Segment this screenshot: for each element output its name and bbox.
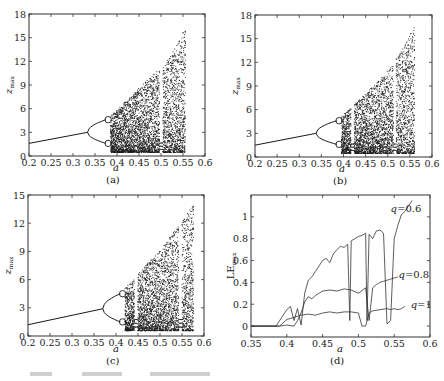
x-tick-label: 0.5 (351, 338, 366, 349)
y-tick-label: 6 (19, 274, 25, 285)
x-tick-label: 0.3 (65, 157, 80, 168)
y-tick-label: 9 (20, 80, 26, 91)
y-tick-label: 12 (240, 57, 252, 68)
panel-b-bifurcation: 0.20.250.30.350.40.450.50.550.6036912151… (229, 10, 440, 170)
y-tick-label: 18 (240, 10, 252, 21)
caption-fragment (82, 372, 122, 376)
x-tick-label: 0.6 (424, 158, 439, 169)
x-tick-label: 0.45 (127, 337, 148, 348)
x-tick-label: 0.5 (153, 157, 168, 168)
y-tick-label: 0.8 (233, 233, 248, 244)
panel-b-xlabel: a (339, 163, 345, 174)
panel-d-lyapunov: 0.350.40.450.50.550.600.20.40.60.81LEmax… (225, 195, 438, 349)
y-tick-label: 0 (19, 331, 25, 342)
series-label-q08: q=0.8 (398, 269, 429, 280)
panel-d-xlabel: a (337, 343, 343, 354)
x-tick-label: 0.4 (279, 338, 294, 349)
y-axis-label: zmax (3, 75, 15, 95)
panel-c-bifurcation: 0.20.250.30.350.40.450.50.550.603691215z… (2, 190, 212, 349)
y-tick-label: 12 (13, 218, 25, 229)
y-tick-label: 15 (14, 32, 26, 43)
plot-frame (255, 15, 432, 157)
chaotic-attractor-points (125, 206, 194, 331)
x-tick-label: 0.45 (128, 157, 149, 168)
x-tick-label: 0.25 (40, 157, 61, 168)
x-tick-label: 0.25 (39, 337, 60, 348)
x-tick-label: 0.5 (152, 337, 167, 348)
period-2-lower-branch (88, 132, 106, 143)
y-tick-label: 6 (246, 104, 252, 115)
chaotic-attractor-points (341, 27, 415, 154)
y-tick-label: 3 (20, 127, 26, 138)
period-2-upper-branch (316, 121, 337, 134)
x-tick-label: 0.35 (240, 338, 261, 349)
y-tick-label: 0 (246, 152, 252, 163)
period-1-branch (29, 132, 88, 143)
x-tick-label: 0.55 (384, 338, 405, 349)
x-tick-label: 0.5 (380, 158, 395, 169)
x-tick-label: 0.3 (292, 158, 307, 169)
period-2-lower-branch (103, 309, 121, 322)
y-tick-label: 15 (13, 190, 25, 201)
y-tick-label: 0 (242, 321, 248, 332)
chaotic-attractor-points (110, 31, 186, 153)
y-tick-label: 9 (246, 81, 252, 92)
period-2-upper-branch (103, 294, 121, 309)
figure: 0.20.250.30.350.40.450.50.550.6036912151… (0, 0, 444, 381)
period-1-branch (255, 133, 316, 145)
series-line-q06 (251, 201, 412, 327)
y-axis-label: LEmax (225, 252, 237, 279)
plot-frame (251, 195, 430, 337)
x-tick-label: 0.35 (83, 337, 104, 348)
x-tick-label: 0.55 (172, 157, 193, 168)
y-tick-label: 0.2 (233, 299, 248, 310)
series-line-q08 (251, 277, 398, 326)
x-tick-label: 0.3 (64, 337, 79, 348)
y-tick-label: 18 (14, 9, 26, 20)
period-2-upper-branch (88, 120, 106, 133)
y-axis-label: zmax (229, 76, 241, 96)
y-axis-label: zmax (2, 256, 14, 276)
panel-c-label: (c) (106, 355, 119, 366)
x-tick-label: 0.55 (399, 158, 420, 169)
x-tick-label: 0.35 (84, 157, 105, 168)
y-tick-label: 9 (19, 246, 25, 257)
panel-a-label: (a) (106, 174, 120, 185)
panel-b-label: (b) (333, 175, 347, 186)
plot-frame (28, 195, 204, 336)
x-tick-label: 0.55 (171, 337, 192, 348)
panel-d-label: (d) (330, 355, 344, 366)
caption-fragment (150, 372, 210, 376)
y-tick-label: 3 (19, 302, 25, 313)
series-label-q1: q=1 (411, 299, 432, 310)
x-tick-label: 0.45 (355, 158, 376, 169)
series-label-q06: q=0.6 (391, 203, 422, 214)
plot-frame (29, 14, 205, 156)
x-tick-label: 0.6 (196, 337, 211, 348)
x-tick-label: 0.6 (422, 338, 437, 349)
period-1-branch (28, 309, 103, 325)
y-tick-label: 6 (20, 103, 26, 114)
series-line-q1 (251, 306, 405, 326)
panel-c-xlabel: a (113, 343, 119, 354)
y-tick-label: 15 (240, 33, 252, 44)
panel-a-bifurcation: 0.20.250.30.350.40.450.50.550.6036912151… (3, 9, 213, 169)
y-tick-label: 1 (242, 211, 248, 222)
x-tick-label: 0.6 (197, 157, 212, 168)
x-tick-label: 0.35 (311, 158, 332, 169)
y-tick-label: 12 (14, 56, 26, 67)
caption-fragment (30, 372, 52, 376)
y-tick-label: 3 (246, 128, 252, 139)
period-2-lower-branch (316, 133, 337, 144)
y-tick-label: 0 (20, 151, 26, 162)
x-tick-label: 0.45 (312, 338, 333, 349)
panel-a-xlabel: a (113, 162, 119, 173)
x-tick-label: 0.25 (267, 158, 288, 169)
